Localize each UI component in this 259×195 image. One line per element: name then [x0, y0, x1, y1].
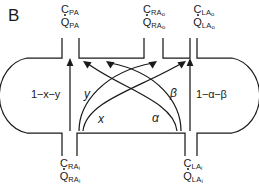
- arrowhead-right-straight: [187, 58, 194, 66]
- rai-concentration-label: CRAi: [45, 158, 95, 171]
- lai-concentration-label: CLAi: [168, 158, 218, 171]
- overdot-icon: [197, 14, 199, 16]
- lao-flow-label: QLAo: [179, 17, 229, 30]
- overdot-icon: [64, 14, 66, 16]
- flow-fraction-right-straight: 1−α−β: [196, 89, 227, 101]
- overdot-icon: [187, 168, 189, 170]
- flow-fraction-x: x: [98, 113, 104, 126]
- rao-flow-label: QRAo: [129, 17, 179, 30]
- rai-flow-label: QRAi: [45, 171, 95, 184]
- figure-panel-b: B CPA QPA CRAo QRAo CLAo QLAo CRAi QRAi …: [0, 0, 259, 195]
- port-label-la-inlet: CLAi QLAi: [168, 158, 218, 184]
- top-notch-2: [163, 47, 190, 58]
- port-label-ra-inlet: CRAi QRAi: [45, 158, 95, 184]
- arrowhead-beta: [106, 61, 115, 69]
- port-label-pa-outlet: CPA QPA: [48, 4, 92, 30]
- port-label-la-outlet: CLAo QLAo: [179, 4, 229, 30]
- port-label-ra-outlet: CRAo QRAo: [129, 4, 179, 30]
- flow-fraction-y: y: [84, 88, 90, 101]
- pa-flow-label: QPA: [48, 17, 92, 30]
- arrowhead-left-straight: [67, 58, 74, 66]
- top-notch-1: [79, 47, 144, 58]
- rao-concentration-label: CRAo: [129, 4, 179, 17]
- panel-letter: B: [8, 7, 20, 25]
- flow-fraction-left-straight: 1−x−y: [31, 89, 60, 101]
- pa-concentration-label: CPA: [48, 4, 92, 17]
- arrowhead-y: [148, 61, 157, 69]
- overdot-icon: [63, 168, 65, 170]
- lai-flow-label: QLAi: [168, 171, 218, 184]
- overdot-icon: [146, 14, 148, 16]
- flow-fraction-alpha: α: [152, 112, 159, 125]
- lao-concentration-label: CLAo: [179, 4, 229, 17]
- bottom-notch: [77, 133, 185, 145]
- flow-fraction-beta: β: [170, 87, 177, 100]
